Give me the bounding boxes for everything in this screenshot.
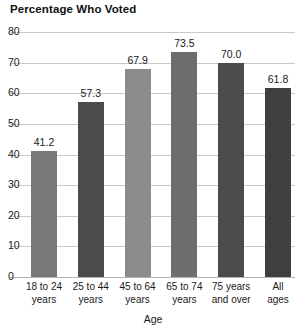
x-axis-tick-label: Allages <box>253 281 303 306</box>
gridline <box>10 124 295 125</box>
y-axis-tick-label: 20 <box>8 210 28 221</box>
bar-value-label: 41.2 <box>21 137 67 148</box>
bar-chart: Percentage Who Voted 01020304050607080 4… <box>0 0 306 335</box>
gridline <box>10 32 295 33</box>
x-axis-tick-label: 65 to 74years <box>159 281 209 306</box>
y-axis-tick-label: 10 <box>8 240 28 251</box>
y-axis-tick-label: 30 <box>8 179 28 190</box>
x-axis-tick-label: 18 to 24years <box>19 281 69 306</box>
y-axis-tick-label: 80 <box>8 26 28 37</box>
x-axis-tick-label: 45 to 64years <box>113 281 163 306</box>
y-axis-tick-label: 40 <box>8 149 28 160</box>
bar[interactable] <box>31 151 57 277</box>
gridline <box>10 277 295 278</box>
x-axis-tick-label: 25 to 44years <box>66 281 116 306</box>
bar-value-label: 73.5 <box>161 38 207 49</box>
bar-value-label: 57.3 <box>68 88 114 99</box>
bar-value-label: 67.9 <box>115 55 161 66</box>
bar[interactable] <box>125 69 151 277</box>
bar[interactable] <box>218 63 244 277</box>
plot-area: 01020304050607080 41.257.367.973.570.061… <box>0 0 306 335</box>
x-axis-tick-label: 75 yearsand over <box>206 281 256 306</box>
gridline <box>10 93 295 94</box>
y-axis-tick-label: 50 <box>8 118 28 129</box>
bar[interactable] <box>265 88 291 277</box>
bar-value-label: 70.0 <box>208 49 254 60</box>
bar[interactable] <box>78 102 104 277</box>
y-axis-tick-label: 60 <box>8 87 28 98</box>
y-axis-tick-label: 70 <box>8 57 28 68</box>
x-axis-title: Age <box>0 313 306 325</box>
bar[interactable] <box>171 52 197 277</box>
bar-value-label: 61.8 <box>255 74 301 85</box>
